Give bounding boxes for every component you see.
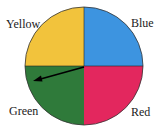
label-blue: Blue <box>131 17 154 29</box>
sector-yellow <box>25 7 84 66</box>
label-yellow: Yellow <box>6 18 40 30</box>
label-green: Green <box>9 105 38 117</box>
label-red: Red <box>131 106 150 118</box>
